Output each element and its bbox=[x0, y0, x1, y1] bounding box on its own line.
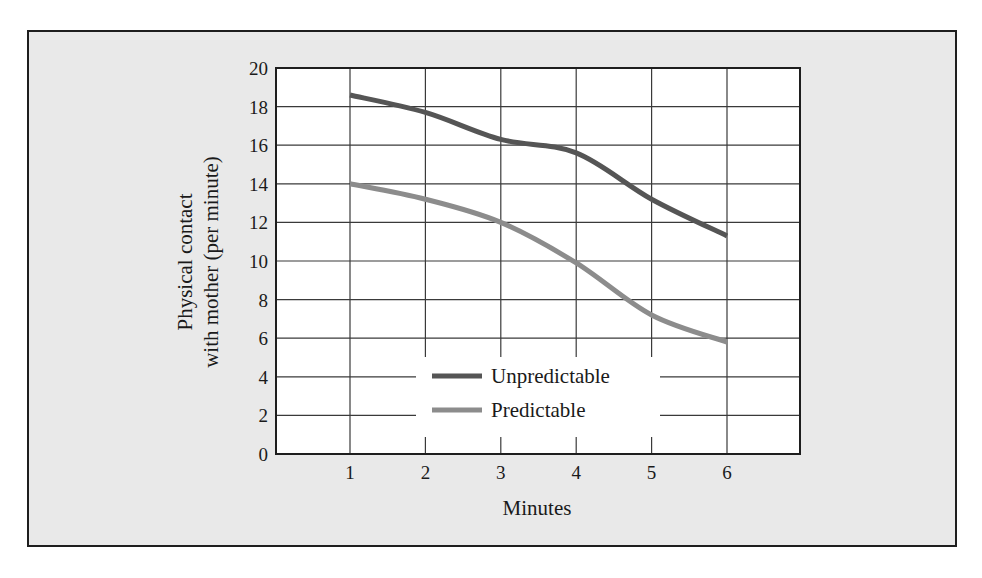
y-tick-label: 6 bbox=[259, 328, 269, 349]
x-tick-label: 1 bbox=[345, 462, 355, 483]
y-axis-tick-labels: 02468101214161820 bbox=[249, 58, 269, 465]
y-tick-label: 2 bbox=[259, 405, 269, 426]
x-tick-label: 5 bbox=[647, 462, 657, 483]
y-axis-title-line: with mother (per minute) bbox=[199, 156, 223, 368]
legend: UnpredictablePredictable bbox=[416, 357, 660, 437]
legend-label: Predictable bbox=[491, 398, 585, 422]
legend-label: Unpredictable bbox=[491, 364, 610, 388]
x-axis-title: Minutes bbox=[503, 496, 572, 520]
y-axis-title: Physical contactwith mother (per minute) bbox=[173, 156, 223, 368]
y-tick-label: 14 bbox=[249, 174, 269, 195]
y-tick-label: 16 bbox=[249, 135, 268, 156]
x-axis-tick-labels: 123456 bbox=[345, 462, 732, 483]
line-chart: UnpredictablePredictable 024681012141618… bbox=[0, 0, 982, 578]
y-tick-label: 4 bbox=[259, 367, 269, 388]
x-tick-label: 4 bbox=[571, 462, 581, 483]
y-tick-label: 18 bbox=[249, 97, 268, 118]
y-axis-title-line: Physical contact bbox=[173, 193, 197, 330]
x-tick-label: 2 bbox=[421, 462, 431, 483]
y-tick-label: 20 bbox=[249, 58, 268, 79]
x-tick-label: 6 bbox=[722, 462, 732, 483]
y-tick-label: 12 bbox=[249, 212, 268, 233]
y-tick-label: 8 bbox=[259, 290, 269, 311]
y-tick-label: 10 bbox=[249, 251, 268, 272]
y-tick-label: 0 bbox=[259, 444, 269, 465]
x-tick-label: 3 bbox=[496, 462, 506, 483]
